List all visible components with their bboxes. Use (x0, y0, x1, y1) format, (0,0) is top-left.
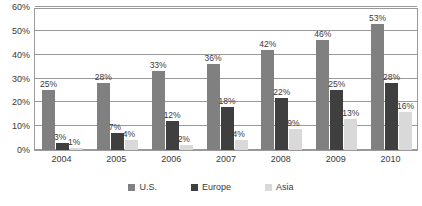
x-tick-label-2004: 2004 (38, 154, 84, 164)
bar-asia-2008 (289, 129, 302, 150)
bar-group-2006: 33%12%2% (152, 9, 193, 150)
bar-asia-2004 (70, 148, 83, 150)
data-label: 18% (219, 97, 236, 106)
y-tick-label: 20% (0, 98, 30, 107)
data-label: 22% (273, 88, 290, 97)
data-label: 4% (123, 130, 135, 139)
legend-item-europe[interactable]: Europe (191, 183, 231, 192)
y-tick-label: 50% (0, 27, 30, 36)
y-tick-label: 0% (0, 146, 30, 155)
data-label: 53% (369, 14, 386, 23)
bar-europe-2007 (221, 107, 234, 150)
y-tick-label: 30% (0, 75, 30, 84)
x-tick-label-2007: 2007 (203, 154, 249, 164)
bar-asia-2010 (399, 112, 412, 150)
data-label: 33% (150, 61, 167, 70)
data-label: 28% (95, 73, 112, 82)
legend-item-us[interactable]: U.S. (128, 183, 157, 192)
bar-asia-2005 (125, 140, 138, 150)
data-label: 9% (287, 119, 299, 128)
data-label: 3% (54, 133, 66, 142)
bar-us-2010 (371, 24, 384, 150)
data-label: 46% (314, 30, 331, 39)
data-label: 42% (259, 40, 276, 49)
data-label: 1% (68, 138, 80, 147)
bar-group-2004: 25%3%1% (42, 9, 83, 150)
legend-label: U.S. (139, 183, 157, 192)
y-tick-label: 40% (0, 51, 30, 60)
bar-us-2007 (207, 64, 220, 150)
bar-asia-2006 (180, 145, 193, 150)
x-tick-label-2005: 2005 (93, 154, 139, 164)
data-label: 16% (397, 102, 414, 111)
plot-area: 25%3%1%28%7%4%33%12%2%36%18%4%42%22%9%46… (34, 8, 418, 151)
y-tick-label: 60% (0, 3, 30, 12)
data-label: 25% (328, 80, 345, 89)
bar-group-2008: 42%22%9% (261, 9, 302, 150)
legend-swatch-icon (128, 184, 135, 191)
bar-europe-2010 (385, 83, 398, 150)
x-axis-tick-labels: 2004200520062007200820092010 (34, 154, 418, 168)
data-label: 36% (205, 54, 222, 63)
bar-group-2009: 46%25%13% (316, 9, 357, 150)
legend-item-asia[interactable]: Asia (265, 183, 294, 192)
y-tick-label: 10% (0, 122, 30, 131)
legend-label: Asia (276, 183, 294, 192)
bar-europe-2009 (330, 90, 343, 150)
bar-asia-2007 (235, 140, 248, 150)
legend-label: Europe (202, 183, 231, 192)
bar-us-2009 (316, 40, 329, 150)
x-tick-label-2009: 2009 (313, 154, 359, 164)
data-label: 13% (342, 109, 359, 118)
legend-swatch-icon (265, 184, 272, 191)
data-label: 7% (109, 123, 121, 132)
bar-chart: 25%3%1%28%7%4%33%12%2%36%18%4%42%22%9%46… (0, 0, 422, 206)
x-tick-label-2010: 2010 (368, 154, 414, 164)
bars-layer: 25%3%1%28%7%4%33%12%2%36%18%4%42%22%9%46… (35, 9, 417, 150)
data-label: 4% (233, 130, 245, 139)
x-tick-label-2006: 2006 (148, 154, 194, 164)
data-label: 28% (383, 73, 400, 82)
data-label: 12% (164, 111, 181, 120)
bar-asia-2009 (344, 119, 357, 150)
bar-group-2010: 53%28%16% (371, 9, 412, 150)
bar-us-2005 (97, 83, 110, 150)
data-label: 25% (40, 80, 57, 89)
bar-group-2005: 28%7%4% (97, 9, 138, 150)
data-label: 2% (178, 135, 190, 144)
bar-us-2008 (261, 50, 274, 150)
bar-group-2007: 36%18%4% (207, 9, 248, 150)
legend-swatch-icon (191, 184, 198, 191)
gridline-60 (35, 6, 417, 7)
chart-legend: U.S.EuropeAsia (0, 183, 422, 192)
x-tick-label-2008: 2008 (258, 154, 304, 164)
